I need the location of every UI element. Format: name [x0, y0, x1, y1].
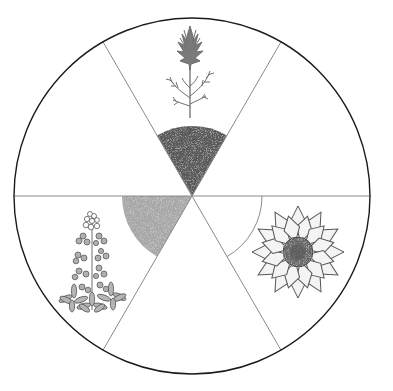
top-wedge-shaded	[157, 126, 227, 196]
section-dividers	[14, 42, 370, 350]
lower-right-wedge-outline	[227, 196, 262, 257]
paintbrush-plant-icon	[166, 26, 214, 118]
lower-left-wedge-shaded	[122, 196, 192, 257]
divider-top-left	[103, 42, 192, 196]
divider-top-right	[192, 42, 281, 196]
fraction-circle-diagram	[0, 0, 393, 391]
sunflower-icon	[252, 206, 344, 298]
bluebonnet-flower-icon	[58, 212, 127, 314]
